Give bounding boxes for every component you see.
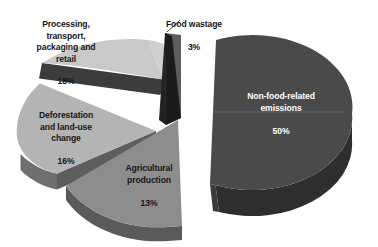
slice-label-processing-pct: 18% (58, 76, 75, 86)
slice-label-agricultural-text: Agricultural production (125, 163, 172, 184)
slice-label-non-food-pct: 50% (273, 126, 290, 136)
slice-label-food-wastage-text: Food wastage (166, 19, 222, 29)
slice-label-processing-text: Processing, transport, packaging and ret… (37, 19, 96, 63)
slice-label-deforestation-text: Deforestation and land-use change (39, 110, 93, 143)
slice-label-deforestation-pct: 16% (58, 156, 75, 166)
pie-chart-figure: Processing, transport, packaging and ret… (0, 0, 378, 247)
slice-label-non-food-related-emissions: Non-food-related emissions 50% (222, 80, 340, 137)
slice-label-non-food-text: Non-food-related emissions (247, 91, 315, 112)
slice-label-agricultural-pct: 13% (141, 198, 158, 208)
slice-label-processing-transport-packaging-retail: Processing, transport, packaging and ret… (14, 8, 118, 88)
slice-label-food-wastage: Food wastage 3% (146, 8, 242, 54)
slice-label-agricultural-production: Agricultural production 13% (103, 152, 195, 209)
slice-label-food-wastage-pct: 3% (188, 42, 200, 52)
